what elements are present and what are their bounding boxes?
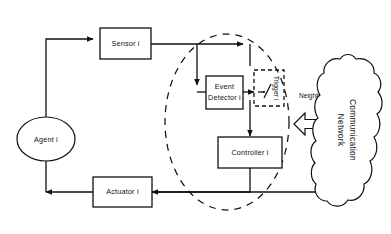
communication-network-label-line1: Communication (348, 99, 358, 161)
trigger-label: Trigger i (272, 76, 280, 101)
sensor-label: Sensor i (112, 39, 140, 48)
node-trigger[interactable]: Trigger i (254, 70, 284, 106)
event-triggered-mechanism-boundary (165, 34, 289, 210)
event-detector-label-line2: Detector i (208, 93, 241, 102)
connector-controller-to-actuator (146, 168, 250, 192)
agent-label: Agent i (34, 135, 58, 144)
trigger-switch-pivot (263, 91, 265, 93)
architecture-diagram: Agent i Sensor i Event Detector i Trigge… (0, 0, 391, 234)
communication-network-label-line2: Network (336, 114, 346, 147)
trigger-switch-blade (264, 84, 271, 98)
controller-label: Controller i (231, 148, 268, 157)
node-controller[interactable]: Controller i (218, 137, 282, 168)
actuator-label: Actuator i (106, 187, 139, 196)
node-event-detector[interactable]: Event Detector i (206, 76, 243, 109)
connector-agent-to-sensor (46, 39, 93, 118)
diagram-canvas: Agent i Sensor i Event Detector i Trigge… (0, 0, 391, 234)
node-agent[interactable]: Agent i (17, 117, 75, 161)
event-detector-label-line1: Event (215, 82, 234, 91)
node-actuator[interactable]: Actuator i (93, 177, 152, 207)
node-communication-network[interactable]: Communication Network (311, 55, 382, 207)
node-sensor[interactable]: Sensor i (100, 28, 151, 59)
